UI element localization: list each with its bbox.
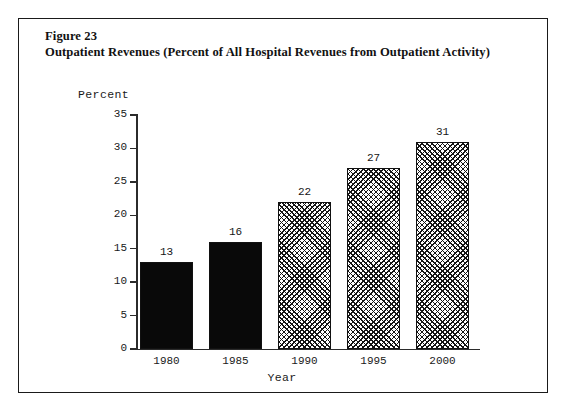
x-axis-tick-label-1980: 1980 (132, 355, 202, 367)
figure-number: Figure 23 (45, 28, 525, 44)
y-axis-tick-label: 30 (101, 142, 127, 153)
bar-value-label-1985: 16 (201, 226, 271, 238)
y-axis-tick-mark (130, 148, 137, 149)
x-axis-tick-label-2000: 2000 (408, 355, 478, 367)
bar-1980 (140, 262, 193, 349)
y-axis-tick-mark (130, 281, 137, 282)
y-axis-tick-mark (130, 114, 137, 115)
x-axis-tick-label-1995: 1995 (339, 355, 409, 367)
y-axis-tick-label: 35 (101, 109, 127, 120)
x-axis-tick-label-1990: 1990 (270, 355, 340, 367)
bar-value-label-1980: 13 (132, 246, 202, 258)
y-axis-tick-mark (130, 181, 137, 182)
y-axis-tick-mark (130, 215, 137, 216)
y-axis-tick-label: 20 (101, 209, 127, 220)
figure-title: Outpatient Revenues (Percent of All Hosp… (45, 44, 525, 60)
bar-1990 (278, 202, 331, 349)
y-axis-tick-mark (130, 315, 137, 316)
figure-root: Figure 23 Outpatient Revenues (Percent o… (0, 0, 564, 416)
bar-2000 (416, 142, 469, 349)
x-axis-title: Year (0, 371, 564, 384)
bar-value-label-1990: 22 (270, 186, 340, 198)
y-axis-tick-label: 0 (101, 343, 127, 354)
y-axis-tick-label: 15 (101, 243, 127, 254)
bar-value-label-2000: 31 (408, 126, 478, 138)
y-axis-tick-label: 10 (101, 276, 127, 287)
x-axis-tick-label-1985: 1985 (201, 355, 271, 367)
y-axis-title: Percent (78, 88, 129, 101)
y-axis-tick-label: 5 (101, 310, 127, 321)
y-axis-tick-mark (130, 348, 137, 349)
figure-title-block: Figure 23 Outpatient Revenues (Percent o… (45, 28, 525, 60)
y-axis-tick-label: 25 (101, 176, 127, 187)
bar-value-label-1995: 27 (339, 152, 409, 164)
bar-1985 (209, 242, 262, 349)
bar-1995 (347, 168, 400, 349)
